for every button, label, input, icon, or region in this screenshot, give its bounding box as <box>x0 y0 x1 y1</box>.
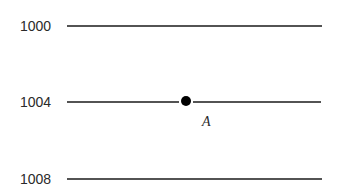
isobar-label-1008: 1008 <box>20 172 51 186</box>
point-a-marker <box>181 96 191 106</box>
isobar-label-1004: 1004 <box>20 95 51 109</box>
isobar-diagram <box>0 0 344 195</box>
point-a-label: A <box>202 115 211 129</box>
isobar-label-1000: 1000 <box>20 19 51 33</box>
